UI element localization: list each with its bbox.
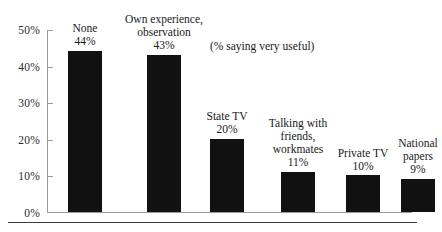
bar-value-label: 43%: [118, 39, 210, 52]
bar-value-label: 9%: [387, 163, 442, 176]
bottom-divider: [8, 222, 417, 223]
bar-category-label: National papers: [387, 137, 442, 163]
x-axis-line: [47, 212, 412, 213]
bar-category-label: Private TV: [335, 147, 391, 160]
bar-value-label: 11%: [258, 156, 338, 169]
bar-label: Private TV 10%: [335, 147, 391, 173]
y-tick-label: 50%: [18, 24, 40, 36]
y-tick-label: 20%: [18, 134, 40, 146]
bar-series: None 44% Own experience, observation 43%…: [47, 30, 412, 212]
bar-rect: [281, 172, 315, 212]
bar-item-national-papers: National papers 9%: [389, 179, 442, 212]
bar-item-private-tv: Private TV 10%: [334, 175, 392, 212]
y-tick-label: 10%: [18, 170, 40, 182]
y-tick-label: 30%: [18, 97, 40, 109]
plot-area: 50% 40% 30% 20% 10% 0% None 44%: [47, 30, 412, 213]
bar-item-state-tv: State TV 20%: [195, 139, 259, 212]
y-tick-label: 40%: [18, 61, 40, 73]
bar-label: Own experience, observation 43%: [118, 13, 210, 52]
bar-item-talking-with-friends: Talking with friends, workmates 11%: [262, 172, 334, 212]
chart-annotation: (% saying very useful): [210, 40, 314, 52]
bar-rect: [401, 179, 435, 212]
y-tick-label: 0%: [24, 207, 40, 219]
bar-label: National papers 9%: [387, 137, 442, 176]
bar-rect: [210, 139, 244, 212]
bar-rect: [68, 51, 102, 212]
y-tick-0: 0%: [47, 213, 53, 214]
bar-category-label: Talking with friends, workmates: [258, 117, 338, 156]
bar-rect: [147, 55, 181, 212]
bar-item-none: None 44%: [55, 51, 115, 212]
bar-rect: [346, 175, 380, 212]
bar-label: Talking with friends, workmates 11%: [258, 117, 338, 169]
bar-category-label: Own experience, observation: [118, 13, 210, 39]
bar-value-label: 10%: [335, 160, 391, 173]
